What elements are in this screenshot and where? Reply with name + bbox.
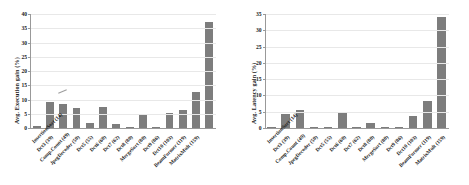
gridline (265, 14, 449, 15)
y-axis-tick-label: 30 (249, 27, 262, 33)
bar (192, 92, 200, 128)
y-axis-tick-label: 5 (249, 109, 262, 115)
bar (338, 113, 346, 128)
y-axis-tick-label: 15 (14, 82, 27, 88)
x-axis-line (30, 128, 216, 129)
y-axis-tick-label: 0 (249, 125, 262, 131)
bar (73, 108, 81, 128)
bar (139, 115, 147, 128)
gridline (30, 43, 216, 44)
bar (166, 113, 174, 128)
gridline (30, 14, 216, 15)
gridline (265, 63, 449, 64)
gridline (265, 79, 449, 80)
y-axis-tick-label: 20 (249, 60, 262, 66)
gridline (30, 28, 216, 29)
x-axis-line (265, 128, 449, 129)
y-axis-tick-label: 10 (14, 97, 27, 103)
bar (205, 22, 213, 128)
y-axis-tick-label: 0 (14, 125, 27, 131)
plot-area (265, 14, 449, 128)
gridline (265, 30, 449, 31)
bar (423, 101, 431, 128)
y-axis-tick-label: 40 (14, 11, 27, 17)
y-axis-tick-label: 30 (14, 40, 27, 46)
bar (179, 110, 187, 128)
y-axis-tick-label: 5 (14, 111, 27, 117)
chart-panel-execution-gain: Avg. Execution gain (%) 0510152025303540… (0, 0, 235, 185)
y-axis-tick-label: 20 (14, 68, 27, 74)
x-axis-tick-label: InsertionSort (14) (265, 134, 276, 145)
gridline (265, 47, 449, 48)
y-axis-tick-label: 25 (249, 44, 262, 50)
chart-panel-latency-gain: Avg. Latency gain (%) 05101520253035 Ins… (235, 0, 469, 185)
bar (409, 116, 417, 128)
gridline (30, 71, 216, 72)
gridline (30, 57, 216, 58)
y-axis-tick-label: 15 (249, 76, 262, 82)
gridline (30, 85, 216, 86)
gridline (265, 95, 449, 96)
y-axis-tick-label: 25 (14, 54, 27, 60)
y-axis-tick-label: 35 (249, 11, 262, 17)
gridline (30, 100, 216, 101)
figure-two-bar-charts: Avg. Execution gain (%) 0510152025303540… (0, 0, 469, 185)
y-axis-tick-label: 35 (14, 25, 27, 31)
y-axis-line (265, 14, 266, 129)
y-axis-tick-label: 10 (249, 92, 262, 98)
bar (296, 110, 304, 128)
bar (99, 107, 107, 128)
y-axis-line (30, 14, 31, 129)
